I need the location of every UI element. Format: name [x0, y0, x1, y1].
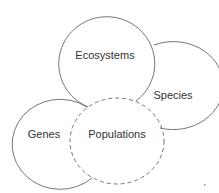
species-circle: [154, 42, 219, 130]
populations-circle: [70, 98, 164, 184]
species-label: Species: [153, 89, 193, 101]
ecosystems-circle: [59, 17, 155, 107]
stray-dot: [204, 184, 206, 186]
diagram-canvas: Ecosystems Species Genes Populations: [0, 0, 219, 193]
ecosystems-label: Ecosystems: [75, 49, 135, 61]
genes-label: Genes: [28, 128, 61, 140]
populations-label: Populations: [88, 128, 146, 140]
genes-circle: [12, 99, 92, 189]
